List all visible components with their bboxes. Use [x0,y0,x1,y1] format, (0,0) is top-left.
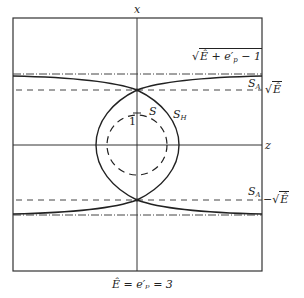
phase-diagram [0,0,304,298]
unit-label: 1 [129,116,136,127]
x-axis-label: x [134,4,140,15]
s-label: S [149,106,157,117]
caption: Ê = e′ₚ = 3 [112,278,173,291]
cusp-top [135,88,138,91]
z-axis-label: z [265,140,271,151]
cusp-bottom [135,198,138,201]
top-dashed-level-label: √Ê [265,84,282,95]
bottom-dashed-level-label: −√Ê [263,194,289,205]
sa-top-label: SA [248,78,261,91]
top-dashdot-level-label: √Ê + e′p − 1 [192,51,262,64]
sa-bottom-label: SA [248,186,261,199]
sh-label: SH [173,109,187,122]
